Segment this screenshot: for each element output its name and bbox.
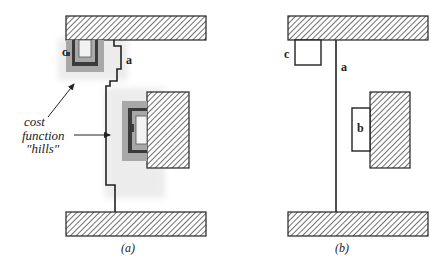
right-obstacle: [147, 92, 189, 168]
panel-a: a c cost function "hills" (a): [22, 16, 206, 255]
path-label-a: a: [341, 60, 347, 74]
path-label-a: a: [126, 53, 132, 67]
box-label-b: b: [357, 121, 364, 135]
caption-b: (b): [335, 241, 349, 255]
routing-diagram: a c cost function "hills" (a) c a b (b): [0, 0, 431, 267]
box-c: [295, 40, 321, 65]
annotation-line-1: cost: [24, 114, 45, 129]
annotation-line-3: "hills": [26, 141, 60, 156]
caption-a: (a): [121, 241, 135, 255]
cost-hill-upper: [66, 40, 104, 72]
panel-b: c a b (b): [284, 16, 428, 255]
bottom-obstacle: [288, 212, 428, 236]
right-obstacle: [370, 92, 410, 168]
box-label-c: c: [284, 47, 290, 61]
bottom-obstacle: [66, 212, 206, 236]
obstacle-label-c: c: [62, 45, 68, 59]
arrow-to-upper-hill: [48, 84, 74, 117]
cost-hill-lower: [122, 101, 147, 161]
top-obstacle: [288, 16, 428, 40]
top-obstacle: [66, 16, 206, 40]
